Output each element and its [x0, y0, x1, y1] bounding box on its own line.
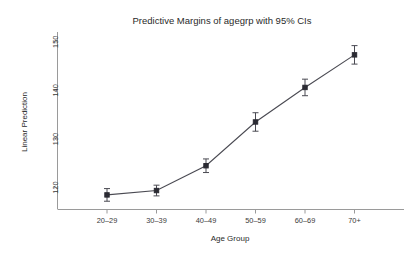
- y-tick-label: 130: [51, 133, 60, 145]
- x-tick-label: 50–59: [245, 216, 266, 225]
- chart-title: Predictive Margins of agegrp with 95% CI…: [133, 15, 312, 26]
- x-axis-title: Age Group: [211, 234, 250, 243]
- data-point-marker: [352, 53, 356, 57]
- y-tick-label: 150: [51, 36, 60, 48]
- x-tick-label: 40–49: [196, 216, 217, 225]
- x-tick-label: 30–39: [146, 216, 167, 225]
- x-tick-label: 60–69: [295, 216, 316, 225]
- y-axis-title: Linear Prediction: [20, 92, 29, 152]
- x-tick-label: 70+: [348, 216, 361, 225]
- data-point-marker: [253, 120, 257, 124]
- y-tick-label: 140: [51, 84, 60, 96]
- data-point-marker: [303, 85, 307, 89]
- data-point-marker: [204, 164, 208, 168]
- chart-canvas: Predictive Margins of agegrp with 95% CI…: [0, 0, 420, 253]
- y-tick-label: 120: [51, 181, 60, 193]
- data-point-marker: [154, 188, 158, 192]
- data-point-marker: [105, 193, 109, 197]
- x-tick-label: 20–29: [97, 216, 118, 225]
- margins-plot: Predictive Margins of agegrp with 95% CI…: [0, 0, 420, 253]
